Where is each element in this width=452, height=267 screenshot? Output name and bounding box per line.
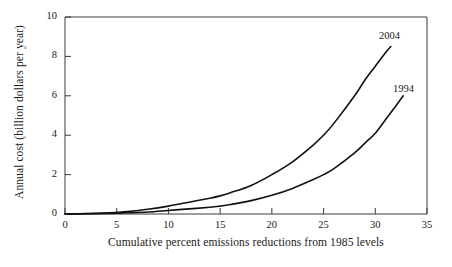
y-tick-label: 10 xyxy=(35,10,57,21)
chart-figure: Annual cost (billion dollars per year) C… xyxy=(0,0,452,267)
y-tick-label: 6 xyxy=(35,89,57,100)
y-tick-label: 0 xyxy=(35,207,57,218)
data-curves xyxy=(65,47,403,214)
axis-frame xyxy=(65,17,427,214)
curve-label-1994: 1994 xyxy=(393,83,414,94)
y-axis-ticks xyxy=(65,17,71,214)
y-tick-label: 8 xyxy=(35,49,57,60)
x-tick-label: 35 xyxy=(416,219,438,230)
x-tick-label: 25 xyxy=(313,219,335,230)
y-tick-label: 4 xyxy=(35,128,57,139)
curve-2004 xyxy=(65,47,391,214)
x-tick-label: 30 xyxy=(364,219,386,230)
x-tick-label: 5 xyxy=(106,219,128,230)
x-tick-label: 10 xyxy=(157,219,179,230)
x-tick-label: 0 xyxy=(54,219,76,230)
y-tick-label: 2 xyxy=(35,168,57,179)
curve-1994 xyxy=(65,96,403,214)
x-tick-label: 15 xyxy=(209,219,231,230)
curve-label-2004: 2004 xyxy=(379,30,400,41)
x-tick-label: 20 xyxy=(261,219,283,230)
